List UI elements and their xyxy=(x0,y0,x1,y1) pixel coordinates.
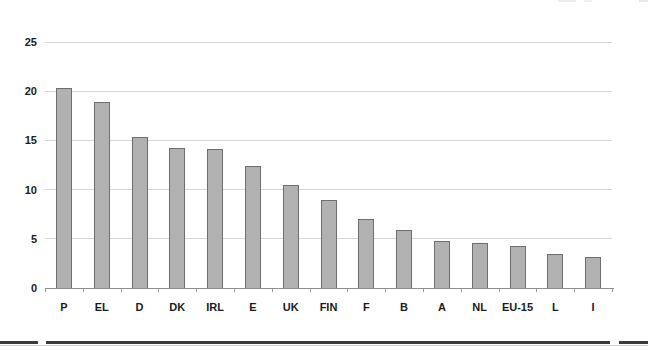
gridline xyxy=(45,91,612,92)
bar xyxy=(245,166,261,288)
bar xyxy=(434,241,450,288)
scan-artifact xyxy=(639,0,648,2)
bar xyxy=(547,254,563,288)
x-axis-category-label: IRL xyxy=(196,301,234,313)
footer-rule-shadow xyxy=(0,345,648,346)
x-axis-category-label: A xyxy=(423,301,461,313)
x-axis-tick xyxy=(272,289,273,292)
bar xyxy=(283,185,299,288)
x-axis-tick xyxy=(196,289,197,292)
x-axis-tick xyxy=(612,289,613,292)
x-axis-tick xyxy=(45,289,46,292)
x-axis-tick xyxy=(536,289,537,292)
gridline xyxy=(45,42,612,43)
x-axis-category-label: NL xyxy=(461,301,499,313)
bar xyxy=(585,257,601,288)
x-axis-line xyxy=(45,288,614,289)
x-axis-category-label: E xyxy=(234,301,272,313)
bar xyxy=(358,219,374,288)
x-axis-category-label: EU-15 xyxy=(499,301,537,313)
footer-rule-main xyxy=(46,341,610,344)
y-axis-tick-label: 10 xyxy=(0,184,37,196)
x-axis-category-label: D xyxy=(121,301,159,313)
x-axis-category-label: B xyxy=(385,301,423,313)
x-axis-category-label: I xyxy=(574,301,612,313)
footer-rule-left xyxy=(0,341,38,344)
scan-artifact xyxy=(558,0,576,2)
bar xyxy=(56,88,72,288)
x-axis-tick xyxy=(347,289,348,292)
bar xyxy=(472,243,488,288)
bar xyxy=(510,246,526,288)
x-axis-tick xyxy=(310,289,311,292)
x-axis-tick xyxy=(385,289,386,292)
x-axis-category-label: L xyxy=(536,301,574,313)
x-axis-tick xyxy=(574,289,575,292)
bar-chart: 0510152025PELDDKIRLEUKFINFBANLEU-15LI xyxy=(0,0,648,353)
x-axis-tick xyxy=(234,289,235,292)
bar xyxy=(396,230,412,288)
bar xyxy=(132,137,148,288)
x-axis-category-label: UK xyxy=(272,301,310,313)
bar xyxy=(321,200,337,288)
bar xyxy=(207,149,223,288)
y-axis-tick-label: 25 xyxy=(0,36,37,48)
scanned-page: 0510152025PELDDKIRLEUKFINFBANLEU-15LI xyxy=(0,0,648,353)
x-axis-category-label: EL xyxy=(83,301,121,313)
gridline xyxy=(45,189,612,190)
footer-rule-right xyxy=(619,341,648,344)
bar xyxy=(169,148,185,288)
x-axis-category-label: DK xyxy=(158,301,196,313)
x-axis-tick xyxy=(499,289,500,292)
x-axis-category-label: FIN xyxy=(310,301,348,313)
gridline xyxy=(45,140,612,141)
x-axis-tick xyxy=(158,289,159,292)
bar xyxy=(94,102,110,288)
y-axis-tick-label: 20 xyxy=(0,85,37,97)
y-axis-tick-label: 15 xyxy=(0,134,37,146)
y-axis-tick-label: 0 xyxy=(0,282,37,294)
x-axis-tick xyxy=(461,289,462,292)
x-axis-tick xyxy=(423,289,424,292)
x-axis-tick xyxy=(121,289,122,292)
scan-artifact xyxy=(584,0,592,2)
y-axis-tick-label: 5 xyxy=(0,233,37,245)
x-axis-tick xyxy=(83,289,84,292)
x-axis-category-label: F xyxy=(347,301,385,313)
x-axis-category-label: P xyxy=(45,301,83,313)
